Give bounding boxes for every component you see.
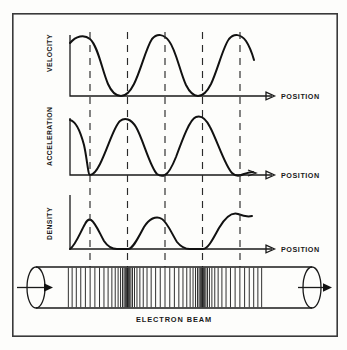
density-axis-label: DENSITY [46, 207, 53, 240]
density-axes [70, 195, 272, 249]
acceleration-curve [70, 116, 253, 175]
density-curve [70, 214, 252, 249]
electron-bunch-stripes [68, 268, 261, 307]
figure-canvas: VELOCITY POSITION ACCELERATION POSITION … [0, 0, 347, 350]
electron-beam-tube: ELECTRON BEAM [17, 267, 332, 324]
electron-beam-label: ELECTRON BEAM [136, 315, 212, 324]
acceleration-axis-label: ACCELERATION [46, 107, 53, 167]
acceleration-position-label: POSITION [281, 171, 320, 180]
klystron-bunching-figure: VELOCITY POSITION ACCELERATION POSITION … [0, 0, 347, 350]
density-position-label: POSITION [281, 245, 320, 254]
velocity-curve [70, 35, 254, 96]
panel-acceleration: ACCELERATION POSITION [46, 107, 320, 181]
panel-density: DENSITY POSITION [46, 195, 320, 254]
panel-velocity: VELOCITY POSITION [46, 34, 320, 101]
velocity-axis-label: VELOCITY [46, 34, 53, 72]
velocity-position-label: POSITION [281, 92, 320, 101]
beam-inlet-arrow [17, 283, 53, 292]
